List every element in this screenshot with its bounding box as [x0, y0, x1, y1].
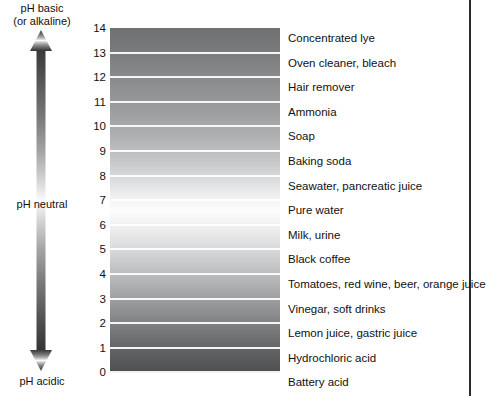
- band-separator-4: [110, 273, 280, 275]
- ph-tick-1: 1: [82, 342, 106, 354]
- substance-label-ph11: Ammonia: [288, 106, 337, 118]
- ph-tick-3: 3: [82, 293, 106, 305]
- band-separator-7: [110, 199, 280, 201]
- substance-label-ph14: Concentrated lye: [288, 32, 375, 44]
- ph-tick-9: 9: [82, 145, 106, 157]
- band-separator-13: [110, 52, 280, 54]
- substance-label-ph13: Oven cleaner, bleach: [288, 57, 396, 69]
- substance-label-ph1: Hydrochloric acid: [288, 352, 376, 364]
- substance-label-list: Concentrated lye Oven cleaner, bleach Ha…: [288, 0, 473, 396]
- band-separator-12: [110, 76, 280, 78]
- substance-label-ph3: Vinegar, soft drinks: [288, 303, 386, 315]
- ph-tick-14: 14: [82, 22, 106, 34]
- substance-label-ph0: Battery acid: [288, 376, 349, 388]
- ph-direction-axis: pH basic (or alkaline): [0, 0, 84, 396]
- ph-gradient-bar: [110, 28, 280, 373]
- substance-label-ph8: Seawater, pancreatic juice: [288, 180, 422, 192]
- ph-tick-11: 11: [82, 96, 106, 108]
- band-separator-0: [110, 371, 280, 373]
- axis-caption-basic-line1: pH basic: [21, 2, 64, 14]
- ph-tick-6: 6: [82, 219, 106, 231]
- band-separator-9: [110, 150, 280, 152]
- band-separator-2: [110, 322, 280, 324]
- band-separator-11: [110, 101, 280, 103]
- band-separator-1: [110, 347, 280, 349]
- substance-label-ph9: Baking soda: [288, 155, 351, 167]
- substance-label-ph5: Black coffee: [288, 253, 350, 265]
- substance-label-ph7: Pure water: [288, 204, 344, 216]
- substance-label-ph12: Hair remover: [288, 81, 354, 93]
- ph-tick-12: 12: [82, 71, 106, 83]
- substance-label-ph2: Lemon juice, gastric juice: [288, 327, 417, 339]
- band-separator-3: [110, 298, 280, 300]
- axis-caption-acidic: pH acidic: [0, 375, 84, 388]
- ph-tick-13: 13: [82, 47, 106, 59]
- band-separator-5: [110, 248, 280, 250]
- substance-label-ph10: Soap: [288, 130, 315, 142]
- substance-label-ph4: Tomatoes, red wine, beer, orange juice: [288, 278, 486, 290]
- ph-tick-4: 4: [82, 268, 106, 280]
- ph-tick-10: 10: [82, 120, 106, 132]
- axis-caption-neutral: pH neutral: [0, 198, 84, 211]
- axis-caption-basic: pH basic (or alkaline): [0, 2, 84, 27]
- band-separator-10: [110, 125, 280, 127]
- ph-tick-5: 5: [82, 243, 106, 255]
- ph-tick-axis: 14 13 12 11 10 9 8 7 6 5 4 3 2 1 0: [82, 0, 106, 396]
- ph-tick-8: 8: [82, 170, 106, 182]
- ph-tick-0: 0: [82, 366, 106, 378]
- band-separator-6: [110, 224, 280, 226]
- ph-tick-7: 7: [82, 194, 106, 206]
- band-separator-8: [110, 175, 280, 177]
- axis-caption-basic-line2: (or alkaline): [13, 15, 70, 27]
- substance-label-ph6: Milk, urine: [288, 229, 340, 241]
- ph-tick-2: 2: [82, 317, 106, 329]
